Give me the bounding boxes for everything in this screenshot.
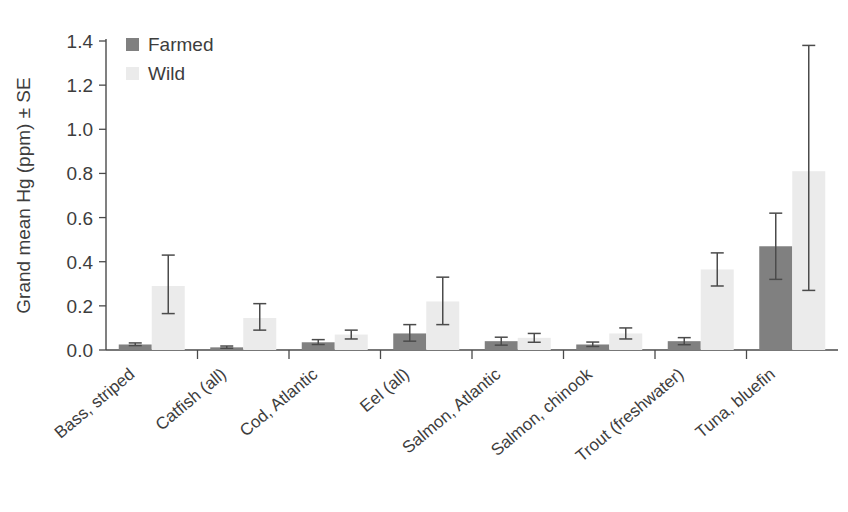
x-axis-category-label: Eel (all): [356, 365, 412, 417]
x-axis-category-label: Tuna, bluefin: [692, 365, 779, 442]
y-axis-tick-label: 1.4: [67, 31, 94, 52]
y-axis-tick-label: 0.4: [67, 252, 94, 273]
x-axis-category-label: Catfish (all): [152, 365, 230, 435]
legend-swatch-farmed: [126, 38, 139, 51]
legend-label-farmed: Farmed: [148, 34, 213, 55]
chart-figure: 0.00.20.40.60.81.01.21.4Grand mean Hg (p…: [0, 0, 848, 512]
y-axis-tick-label: 0.6: [67, 208, 93, 229]
x-axis-category-label: Cod, Atlantic: [236, 364, 322, 440]
x-axis-category-label: Bass, striped: [51, 365, 138, 443]
y-axis-tick-label: 1.0: [67, 119, 93, 140]
y-axis-tick-label: 0.2: [67, 296, 93, 317]
bar-chart: 0.00.20.40.60.81.01.21.4Grand mean Hg (p…: [0, 0, 848, 512]
legend-label-wild: Wild: [148, 63, 185, 84]
y-axis-tick-label: 1.2: [67, 75, 93, 96]
y-axis-title: Grand mean Hg (ppm) ± SE: [13, 77, 34, 313]
y-axis-tick-label: 0.0: [67, 340, 93, 361]
legend-swatch-wild: [126, 67, 139, 80]
y-axis-tick-label: 0.8: [67, 163, 93, 184]
